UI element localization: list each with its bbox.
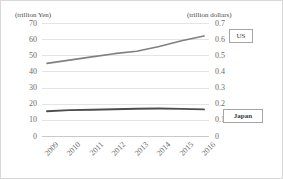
series-lines: [42, 23, 209, 136]
plot-area: 706050403020100 0.70.60.50.40.30.20.10 2…: [42, 23, 209, 136]
x-tick-label: 2013: [132, 140, 150, 158]
gridline: [42, 136, 209, 137]
series-line-japan: [47, 109, 204, 112]
right-tick-label: 0.6: [215, 35, 225, 44]
x-tick-label: 2014: [155, 140, 173, 158]
x-tick-label: 2011: [88, 140, 105, 157]
left-tick-label: 0: [33, 132, 37, 141]
x-tick-label: 2016: [200, 140, 218, 158]
series-line-us: [47, 36, 204, 63]
left-tick-label: 70: [29, 19, 37, 28]
x-tick-label: 2009: [43, 140, 61, 158]
right-tick-label: 0.3: [215, 83, 225, 92]
right-tick-label: 0.7: [215, 19, 225, 28]
right-tick-label: 0.5: [215, 51, 225, 60]
x-tick-label: 2015: [177, 140, 195, 158]
right-tick-label: 0.4: [215, 67, 225, 76]
legend-item-japan[interactable]: Japan: [223, 109, 263, 123]
left-tick-label: 50: [29, 51, 37, 60]
legend-item-us[interactable]: US: [229, 29, 253, 43]
x-tick-label: 2012: [110, 140, 128, 158]
right-tick-label: 0: [215, 132, 219, 141]
left-tick-label: 30: [29, 83, 37, 92]
x-tick-label: 2010: [65, 140, 83, 158]
right-tick-label: 0.2: [215, 99, 225, 108]
left-tick-label: 10: [29, 115, 37, 124]
chart-figure: (trillion Yen) (trillion dollars) 706050…: [0, 0, 283, 179]
left-tick-label: 60: [29, 35, 37, 44]
left-tick-label: 40: [29, 67, 37, 76]
left-tick-label: 20: [29, 99, 37, 108]
